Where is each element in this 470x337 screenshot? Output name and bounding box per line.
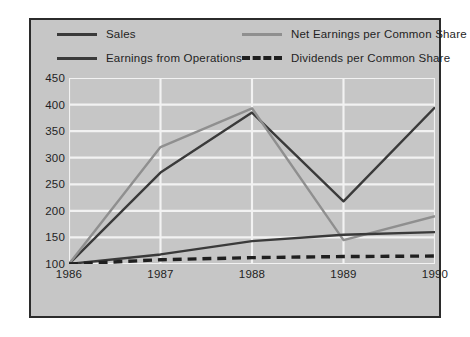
x-axis-tick-label: 1987 [147,268,173,280]
x-axis-tick-labels: 19861987198819891990 [69,268,435,288]
legend-item-sales[interactable]: Sales [57,28,136,40]
legend-item-net-earnings-per-common-share[interactable]: Net Earnings per Common Share [242,28,467,40]
legend-item-dividends-per-common-share[interactable]: Dividends per Common Share [242,52,450,64]
plot-area [69,78,435,264]
chart-legend: Sales Net Earnings per Common Share Earn… [31,20,439,78]
x-axis-tick-label: 1988 [239,268,265,280]
legend-label-sales: Sales [106,28,136,40]
x-axis-tick-label: 1990 [422,268,448,280]
y-axis-tick-label: 450 [45,72,65,84]
y-axis-tick-label: 250 [45,178,65,190]
chart-figure: Sales Net Earnings per Common Share Earn… [29,18,441,318]
y-axis-tick-labels: 100150200250300350400450 [31,78,67,264]
legend-swatch-net-earnings-line-icon [242,33,282,36]
legend-label-net-earnings-per-common-share: Net Earnings per Common Share [291,28,467,40]
legend-item-earnings-from-operations[interactable]: Earnings from Operations [57,52,242,64]
legend-swatch-sales-line-icon [57,33,97,36]
legend-swatch-dividends-dashed-line-icon [242,56,282,60]
x-axis-tick-label: 1989 [330,268,356,280]
x-axis-tick-label: 1986 [56,268,82,280]
y-axis-tick-label: 400 [45,99,65,111]
legend-label-earnings-from-operations: Earnings from Operations [106,52,242,64]
y-axis-tick-label: 300 [45,152,65,164]
y-axis-tick-label: 350 [45,125,65,137]
legend-swatch-earnings-from-operations-line-icon [57,57,97,60]
chart-svg [69,78,435,264]
y-axis-tick-label: 150 [45,231,65,243]
chart-plot-wrapper: 100150200250300350400450 198619871988198… [31,78,439,316]
legend-label-dividends-per-common-share: Dividends per Common Share [291,52,450,64]
y-axis-tick-label: 200 [45,205,65,217]
